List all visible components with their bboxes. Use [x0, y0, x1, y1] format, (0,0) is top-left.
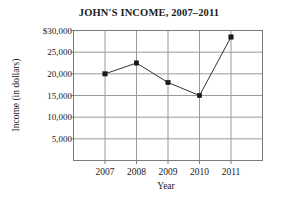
- tickmarks-group: [70, 31, 231, 165]
- data-point-marker: [197, 93, 201, 97]
- data-point-marker: [103, 72, 107, 76]
- data-point-marker: [134, 61, 138, 65]
- chart-figure: JOHN'S INCOME, 2007–2011 Income (in doll…: [0, 0, 298, 203]
- data-point-marker: [166, 80, 170, 84]
- data-point-marker: [229, 35, 233, 39]
- chart-plot-area: [0, 0, 298, 203]
- gridlines-group: [74, 31, 263, 161]
